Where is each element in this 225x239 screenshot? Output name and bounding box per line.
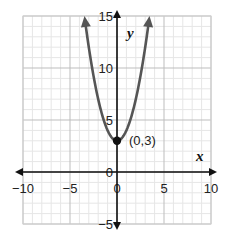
x-tick-label: 5 bbox=[160, 181, 167, 196]
x-tick-label: 10 bbox=[204, 181, 218, 196]
curve-arrow-icon bbox=[143, 16, 153, 28]
y-tick-label: 15 bbox=[99, 9, 113, 24]
x-axis-label: x bbox=[195, 148, 204, 164]
vertex-label: (0,3) bbox=[129, 133, 156, 148]
y-tick-label: −5 bbox=[98, 217, 113, 232]
curve-arrow-icon bbox=[81, 16, 91, 28]
vertex-point bbox=[113, 137, 121, 145]
x-tick-label: −5 bbox=[63, 181, 78, 196]
y-tick-label: 10 bbox=[99, 61, 113, 76]
x-tick-label: −10 bbox=[12, 181, 34, 196]
parabola-chart: −10−50510−5510150 (0,3) x y bbox=[0, 0, 225, 239]
annotation-layer: (0,3) bbox=[113, 133, 156, 148]
y-axis-label: y bbox=[125, 25, 134, 41]
